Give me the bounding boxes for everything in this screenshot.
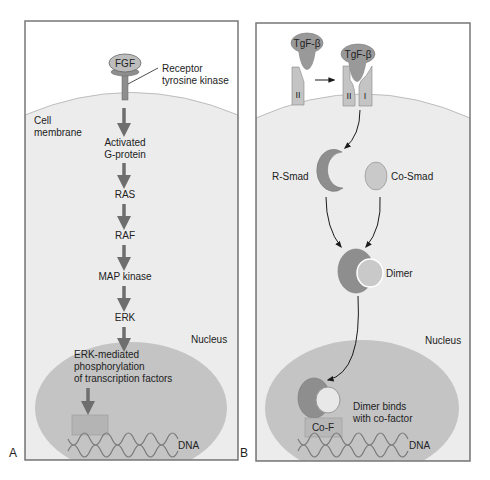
tgf-beta-label-1: TgF-β	[294, 38, 321, 49]
signaling-pathways-figure: FGF Receptor tyrosine kinase Cell membra…	[0, 0, 490, 480]
receptor-ii-label: II	[346, 91, 351, 101]
dimer-label: Dimer	[386, 268, 413, 279]
dimer-binds-label-1: Dimer binds	[353, 401, 406, 412]
nuclear-text-2: phosphorylation	[74, 361, 145, 372]
receptor-label-1: Receptor	[162, 63, 203, 74]
receptor-i-label: I	[364, 91, 367, 101]
co-smad-icon	[365, 162, 387, 190]
membrane-label: membrane	[34, 127, 82, 138]
dimer-binds-label-2: with co-factor	[352, 413, 413, 424]
fgf-label: FGF	[115, 58, 135, 69]
r-smad-label: R-Smad	[272, 171, 309, 182]
nuclear-text-1: ERK-mediated	[74, 349, 139, 360]
receptor-ii-unbound-label: II	[295, 90, 300, 100]
panel-b: TgF-β II TgF-β II I R-Smad Co-Smad Dimer…	[240, 23, 470, 476]
dna-label-a: DNA	[178, 440, 199, 451]
step-activated: Activated	[104, 137, 145, 148]
transcription-factor-box	[72, 415, 108, 435]
tgf-beta-label-2: TgF-β	[345, 49, 372, 60]
step-map-kinase: MAP kinase	[98, 271, 152, 282]
step-erk: ERK	[115, 312, 136, 323]
step-raf: RAF	[115, 230, 135, 241]
co-factor-label: Co-F	[312, 422, 334, 433]
dna-label-b: DNA	[409, 440, 430, 451]
co-smad-label: Co-Smad	[391, 171, 433, 182]
nuclear-text-3: of transcription factors	[74, 373, 172, 384]
panel-a-letter: A	[9, 446, 17, 460]
bound-dimer-co-smad-icon	[316, 387, 340, 413]
panel-a: FGF Receptor tyrosine kinase Cell membra…	[9, 21, 238, 474]
nucleus-label-a: Nucleus	[191, 334, 227, 345]
cell-label: Cell	[34, 115, 51, 126]
receptor-label-2: tyrosine kinase	[162, 75, 229, 86]
step-g-protein: G-protein	[104, 149, 146, 160]
nucleus-label-b: Nucleus	[425, 335, 461, 346]
panel-b-letter: B	[240, 446, 248, 460]
step-ras: RAS	[115, 189, 136, 200]
dimer-co-smad-icon	[357, 259, 383, 287]
